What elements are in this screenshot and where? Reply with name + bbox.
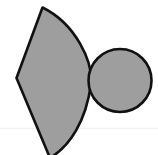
shapes-figure: [0, 0, 158, 155]
circle-shape: [89, 49, 152, 112]
figure-canvas: [0, 0, 158, 155]
